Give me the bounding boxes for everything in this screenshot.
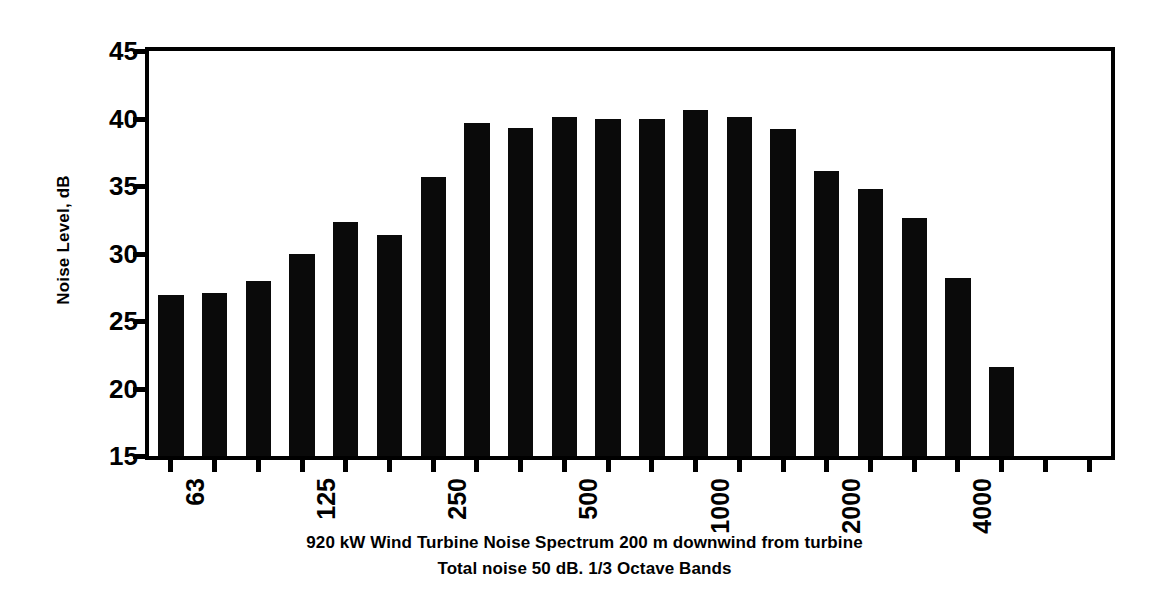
bar [202, 293, 227, 456]
chart-figure: Noise Level, dB 15202530354045 920 kW Wi… [0, 0, 1169, 604]
plot-area [145, 47, 1115, 460]
bar [595, 119, 620, 457]
bar [902, 218, 927, 456]
bar [770, 129, 795, 456]
x-axis-tick-label: 63 [183, 478, 208, 568]
x-axis-tick-mark [474, 460, 479, 472]
x-axis-tick-mark [168, 460, 173, 472]
bar [246, 281, 271, 457]
x-axis-tick-mark [606, 460, 611, 472]
bars-layer [149, 51, 1111, 456]
x-axis-tick-mark [999, 460, 1004, 472]
x-axis-tick-label: 250 [445, 478, 470, 568]
x-axis-tick-mark [824, 460, 829, 472]
y-axis-tick-mark [133, 49, 146, 54]
x-axis-tick-label: 1000 [708, 478, 733, 568]
x-axis-tick-mark [256, 460, 261, 472]
x-axis-tick-mark [868, 460, 873, 472]
x-axis-tick-mark [1087, 460, 1092, 472]
x-axis-tick-mark [1043, 460, 1048, 472]
y-axis-tick-mark [133, 252, 146, 257]
x-axis-tick-mark [693, 460, 698, 472]
x-axis-tick-mark [212, 460, 217, 472]
x-axis-tick-mark [431, 460, 436, 472]
y-axis-tick-label: 45 [92, 38, 138, 64]
bar [421, 177, 446, 456]
bar [945, 278, 970, 456]
bar [289, 254, 314, 457]
y-axis-tick-label: 20 [92, 376, 138, 402]
y-axis-tick-label: 35 [92, 173, 138, 199]
x-axis-tick-mark [518, 460, 523, 472]
bar [333, 222, 358, 456]
bar [464, 123, 489, 456]
y-axis-tick-label: 30 [92, 241, 138, 267]
bar [683, 110, 708, 456]
x-axis-tick-mark [955, 460, 960, 472]
y-axis-tick-mark [133, 184, 146, 189]
bar [158, 295, 183, 456]
bar [858, 189, 883, 456]
bar [639, 119, 664, 457]
x-axis-tick-mark [737, 460, 742, 472]
x-axis-tick-mark [343, 460, 348, 472]
bar [989, 367, 1014, 456]
y-axis-tick-mark [133, 319, 146, 324]
bar [552, 117, 577, 456]
bar [377, 235, 402, 456]
y-axis-title: Noise Level, dB [54, 120, 74, 360]
y-axis-tick-label: 25 [92, 308, 138, 334]
x-axis-tick-mark [649, 460, 654, 472]
x-axis-tick-mark [781, 460, 786, 472]
x-axis-tick-label: 4000 [970, 478, 995, 568]
y-axis-tick-labels: 15202530354045 [92, 0, 138, 604]
x-axis-tick-mark [387, 460, 392, 472]
y-axis-tick-label: 40 [92, 106, 138, 132]
x-axis-tick-mark [912, 460, 917, 472]
x-axis-tick-label: 125 [314, 478, 339, 568]
x-axis-tick-mark [300, 460, 305, 472]
x-axis-tick-mark [562, 460, 567, 472]
y-axis-tick-mark [133, 454, 146, 459]
y-axis-tick-label: 15 [92, 443, 138, 469]
y-axis-tick-mark [133, 387, 146, 392]
bar [727, 117, 752, 456]
bar [814, 171, 839, 456]
x-axis-tick-label: 500 [576, 478, 601, 568]
x-axis-tick-label: 2000 [839, 478, 864, 568]
y-axis-tick-mark [133, 117, 146, 122]
bar [508, 128, 533, 456]
